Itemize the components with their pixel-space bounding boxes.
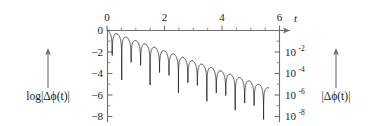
y2tick-label-1e-6: 10 -6 bbox=[285, 87, 305, 101]
y2tick-exponent-2: -4 bbox=[299, 65, 305, 74]
right-axis-title: |Δϕ(t)| bbox=[322, 90, 351, 103]
right-axis-title-group bbox=[333, 48, 339, 88]
y2tick-mantissa-4: 10 bbox=[285, 110, 297, 122]
xtick-label-6: 6 bbox=[277, 11, 283, 23]
data-curve-group bbox=[108, 31, 269, 120]
y2tick-label-1e-4: 10 -4 bbox=[285, 65, 305, 79]
xtick-label-0: 0 bbox=[104, 11, 110, 23]
y2tick-mantissa-3: 10 bbox=[285, 89, 297, 101]
top-axis bbox=[107, 28, 290, 34]
plot-svg: 0 2 4 6 t 0 −2 −4 −6 −8 bbox=[0, 0, 371, 126]
x-axis-title: t bbox=[294, 12, 298, 24]
y2tick-mantissa-2: 10 bbox=[285, 67, 297, 79]
y2tick-label-1e-8: 10 -8 bbox=[285, 108, 305, 122]
left-axis-title-group bbox=[45, 48, 51, 88]
y2tick-exponent-4: -8 bbox=[299, 108, 305, 117]
xtick-label-4: 4 bbox=[219, 11, 225, 23]
figure-container: 0 2 4 6 t 0 −2 −4 −6 −8 bbox=[0, 0, 371, 126]
data-curve bbox=[108, 31, 269, 120]
ytick-label-minus6: −6 bbox=[91, 89, 103, 101]
left-axis-title: log|Δϕ(t)| bbox=[26, 90, 70, 103]
ytick-label-minus2: −2 bbox=[91, 46, 103, 58]
y2tick-exponent-1: -2 bbox=[299, 44, 305, 53]
y2tick-mantissa-1: 10 bbox=[285, 46, 297, 58]
y2tick-exponent-3: -6 bbox=[299, 87, 305, 96]
ytick-label-0: 0 bbox=[98, 24, 104, 36]
ytick-label-minus4: −4 bbox=[91, 67, 103, 79]
xtick-label-2: 2 bbox=[162, 11, 168, 23]
y2tick-label-1e-2: 10 -2 bbox=[285, 44, 305, 58]
ytick-label-minus8: −8 bbox=[91, 110, 103, 122]
